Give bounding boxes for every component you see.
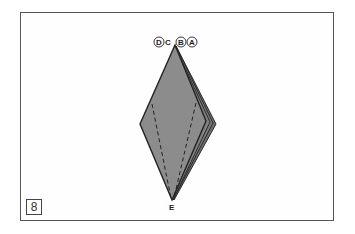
label-a: A	[189, 38, 195, 47]
folded-diamond-diagram: D C B A E	[0, 0, 355, 234]
step-number-box: 8	[26, 199, 42, 215]
step-number: 8	[31, 200, 38, 214]
label-e: E	[169, 203, 175, 212]
label-b: B	[178, 38, 184, 47]
label-c: C	[165, 38, 171, 47]
label-d: D	[156, 38, 162, 47]
front-face	[140, 45, 206, 200]
